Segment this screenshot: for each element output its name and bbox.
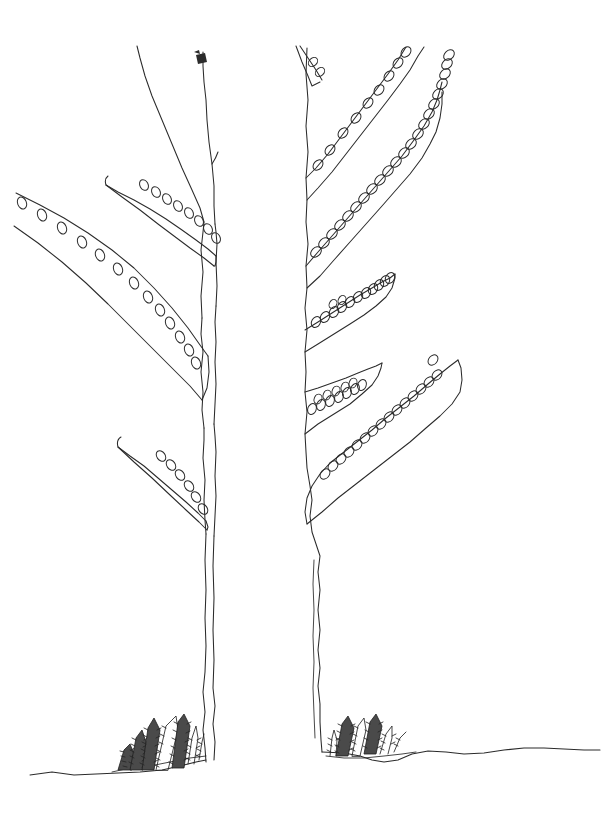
sketch-canvas xyxy=(0,0,616,820)
illustration-root: Two Bare Saplings with Budding Branches … xyxy=(0,0,616,820)
